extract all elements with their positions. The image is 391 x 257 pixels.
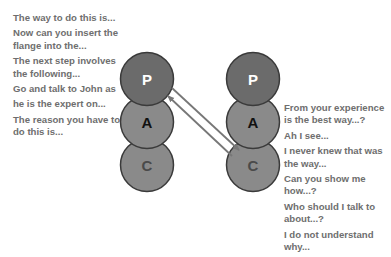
statement-line: the way...: [284, 158, 384, 170]
statement-line: The next step involves: [13, 55, 120, 67]
right-parent-circle: P: [227, 53, 280, 106]
statement-line: he is the expert on...: [13, 98, 120, 110]
left-adult-label: A: [142, 114, 153, 131]
statement-line: Ah I see...: [284, 130, 384, 142]
statement-line: is the best way...?: [284, 114, 384, 126]
statement-line: do this is...: [13, 126, 120, 138]
statement-line: The reason you have to: [13, 114, 120, 126]
return-arrow-icon: [168, 96, 232, 156]
statement-line: flange into the...: [13, 40, 120, 52]
left-statements: The way to do this is... Now can you ins…: [13, 12, 120, 139]
statement-line: why...: [284, 241, 384, 253]
statement-line: From your experience: [284, 102, 384, 114]
statement-line: Now can you insert the: [13, 27, 120, 39]
statement-line: Who should I talk to: [284, 201, 384, 213]
statement-line: about...?: [284, 213, 384, 225]
left-ego-states: C A P: [121, 53, 174, 192]
right-parent-label: P: [248, 71, 258, 88]
right-ego-states: C A P: [227, 53, 280, 192]
statement-line: the following...: [13, 68, 120, 80]
statement-line: how...?: [284, 185, 384, 197]
right-child-label: C: [248, 157, 259, 174]
right-statements: From your experience is the best way...?…: [284, 102, 384, 253]
left-parent-circle-top: P: [121, 53, 174, 106]
statement-line: Can you show me: [284, 173, 384, 185]
statement-line: I never knew that was: [284, 145, 384, 157]
left-parent-label: P: [142, 71, 152, 88]
right-adult-label: A: [248, 114, 259, 131]
left-child-label: C: [142, 157, 153, 174]
statement-line: Go and talk to John as: [13, 83, 120, 95]
statement-line: The way to do this is...: [13, 12, 120, 24]
statement-line: I do not understand: [284, 229, 384, 241]
